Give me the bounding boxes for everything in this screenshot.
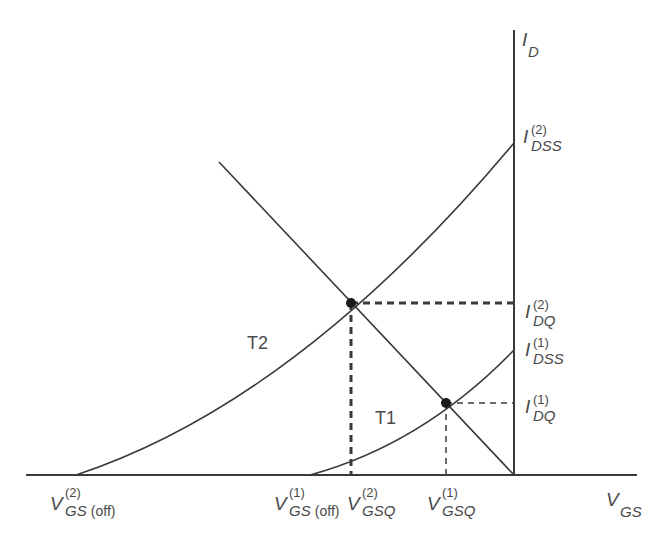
vgs-axis-label: V GS: [606, 490, 619, 509]
transfer-characteristic-diagram: [0, 0, 659, 535]
vgsq1-label: V (1) GSQ: [427, 494, 440, 513]
bias-line: [219, 162, 514, 475]
curve-label-t1: T1: [375, 408, 396, 429]
id-sub: D: [528, 44, 539, 59]
idss2-label: I (2) DSS: [523, 127, 528, 146]
vgsoff1-label: V (1) GS (off): [274, 494, 287, 513]
idss1-label: I (1) DSS: [525, 340, 530, 359]
curve-label-t2: T2: [247, 333, 268, 354]
curve-t1: [310, 350, 514, 475]
operating-point-q2: [346, 298, 356, 308]
idq2-label: I (2) DQ: [525, 302, 530, 321]
operating-point-q1: [441, 398, 451, 408]
vgs-main: V: [606, 489, 619, 510]
curve-t2: [76, 143, 514, 475]
id-main: I: [522, 29, 527, 50]
vgsoff2-label: V (2) GS (off): [50, 494, 63, 513]
vgs-sub: GS: [620, 504, 642, 519]
idq1-label: I (1) DQ: [525, 397, 530, 416]
vgsq2-label: V (2) GSQ: [347, 494, 360, 513]
id-axis-label: I D: [522, 30, 527, 49]
